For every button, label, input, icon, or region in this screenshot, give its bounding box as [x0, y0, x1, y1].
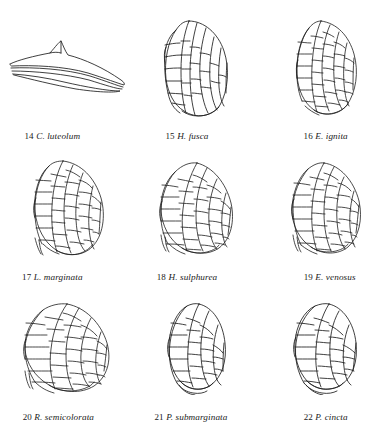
wing-illustration-16: [259, 4, 388, 131]
figure-number: 21: [155, 412, 167, 422]
wing-illustration-19: [259, 144, 388, 271]
figure-species-name: C. luteolum: [36, 131, 80, 141]
wing-illustration-17: [2, 144, 131, 271]
figure-caption: 14C. luteolum: [24, 131, 80, 144]
figure-caption: 22P. cincta: [304, 412, 348, 425]
figure-species-name: H. fusca: [177, 131, 208, 141]
figure-species-name: R. semicolorata: [34, 412, 94, 422]
wing-illustration-15: [131, 4, 260, 131]
wing-illustration-21: [131, 285, 260, 412]
figure-number: 16: [304, 131, 316, 141]
wing-illustration-18: [131, 144, 260, 271]
figure-cell: 20R. semicolorata: [2, 285, 131, 425]
figure-cell: 16E. ignita: [259, 4, 388, 144]
figure-species-name: E. venosus: [315, 272, 355, 282]
figure-caption: 17L. marginata: [22, 272, 83, 285]
figure-species-name: E. ignita: [315, 131, 348, 141]
figure-cell: 14C. luteolum: [2, 4, 131, 144]
figure-species-name: P. submarginata: [166, 412, 227, 422]
wing-illustration-22: [259, 285, 388, 412]
figure-number: 19: [304, 272, 316, 282]
figure-caption: 16E. ignita: [304, 131, 348, 144]
figure-cell: 15H. fusca: [131, 4, 260, 144]
figure-cell: 18H. sulphurea: [131, 144, 260, 284]
figure-number: 17: [22, 272, 34, 282]
figure-number: 15: [165, 131, 177, 141]
figure-cell: 17L. marginata: [2, 144, 131, 284]
figure-species-name: P. cincta: [315, 412, 347, 422]
figure-caption: 21P. submarginata: [155, 412, 228, 425]
figure-cell: 22P. cincta: [259, 285, 388, 425]
figure-number: 22: [304, 412, 316, 422]
figure-number: 14: [24, 131, 36, 141]
figure-plate: 14C. luteolum: [0, 0, 390, 427]
figure-caption: 18H. sulphurea: [157, 272, 218, 285]
figure-species-name: L. marginata: [34, 272, 83, 282]
wing-illustration-14: [2, 4, 131, 131]
figure-number: 20: [23, 412, 35, 422]
figure-caption: 15H. fusca: [165, 131, 208, 144]
wing-illustration-20: [2, 285, 131, 412]
figure-caption: 20R. semicolorata: [23, 412, 94, 425]
figure-cell: 21P. submarginata: [131, 285, 260, 425]
figure-number: 18: [157, 272, 169, 282]
figure-cell: 19E. venosus: [259, 144, 388, 284]
figure-caption: 19E. venosus: [304, 272, 356, 285]
figure-species-name: H. sulphurea: [168, 272, 217, 282]
